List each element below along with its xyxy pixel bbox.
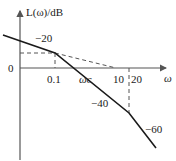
slope-label-20: −20 <box>35 32 53 44</box>
tick-0.1: 0.1 <box>47 73 61 85</box>
tick-20: 20 <box>131 73 143 85</box>
bode-plot: L(ω)/dB ω 0 0.1 ωc 10 20 −20 −40 −60 <box>0 0 176 161</box>
slope-label-40: −40 <box>91 97 109 109</box>
tick-omega-c: ωc <box>79 73 92 85</box>
tick-10: 10 <box>113 73 125 85</box>
x-axis-label: ω <box>164 72 172 84</box>
y-axis-label: L(ω)/dB <box>26 6 63 19</box>
origin-label: 0 <box>8 62 14 74</box>
magnitude-asymptote <box>3 35 156 148</box>
slope-label-60: −60 <box>145 123 163 135</box>
